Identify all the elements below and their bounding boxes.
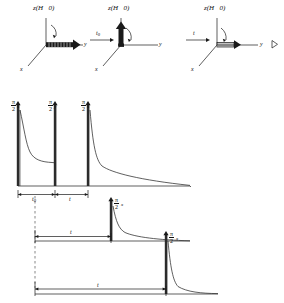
row-1-pulse-3 — [85, 101, 90, 186]
panel-b-z-label: z(H⃗0) — [108, 5, 129, 12]
arrow-t-line — [186, 38, 210, 42]
row-3-pulse-1 — [163, 231, 168, 294]
row-1-pulse-1-label: π2x — [11, 96, 18, 112]
row-1-interval-t — [55, 190, 88, 198]
row-3-pulse-1-label: π2x — [169, 228, 176, 244]
row-1-interval-t-label: t — [69, 196, 71, 204]
row-1-pulse-2-phase: y — [54, 104, 56, 109]
panel-c-axes — [199, 18, 258, 66]
panel-b-x-label: x — [95, 66, 98, 72]
row-1-pulse-3-label: π2x — [81, 96, 88, 112]
panel-b-axes — [103, 18, 158, 66]
row-1-pulse-2 — [52, 101, 57, 186]
panel-a-y-label: y — [84, 41, 87, 47]
arrow-t-label: t — [193, 30, 195, 38]
row-1-interval-t0-label: t0 — [32, 196, 36, 204]
row-3-pulse-1-phase: x — [176, 236, 178, 241]
row-1-pulse-3-phase: x — [87, 104, 89, 109]
row-3-interval-t-label: t — [97, 282, 99, 290]
arrow-t0-label: t0 — [96, 30, 100, 38]
row-2-pulse-1-label: π2x — [114, 194, 121, 210]
arrow-t0-line — [90, 38, 114, 42]
panel-b-y-label: y — [159, 41, 162, 47]
row-1-baseline — [18, 186, 191, 187]
panel-c-x-label: x — [191, 66, 194, 72]
figure-vector-graphics — [0, 0, 284, 303]
row-1-pulse-1-phase: x — [17, 104, 19, 109]
row-1-interval-t0 — [18, 190, 55, 198]
row-2-pulse-1-phase: x — [121, 202, 123, 207]
panel-c-y-label: y — [260, 41, 263, 47]
row-1-pulse-2-label: π2y — [48, 96, 55, 112]
figure-canvas: z(H⃗0) y x t0 z(H⃗0) y x t z(H⃗0) y x π2… — [0, 0, 284, 303]
panel-a-x-label: x — [20, 66, 23, 72]
panel-c-z-label: z(H⃗0) — [204, 5, 225, 12]
row-2-interval-t-label: t — [70, 229, 72, 237]
panel-a-z-label: z(H⃗0) — [33, 5, 54, 12]
